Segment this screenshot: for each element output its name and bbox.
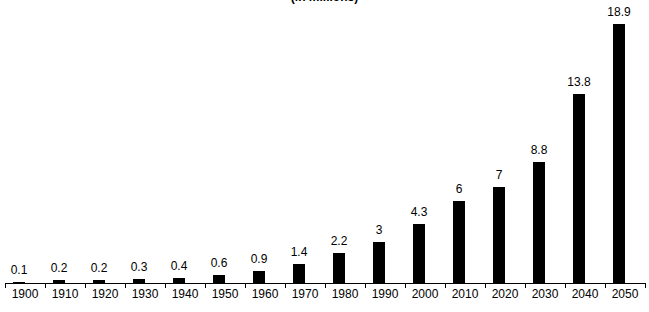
bar-chart: (in millions) 0.119000.219100.219200.319… (0, 0, 649, 312)
x-axis-label: 1990 (365, 288, 405, 301)
x-axis-label: 2030 (525, 288, 565, 301)
value-label: 7 (479, 169, 519, 182)
value-label: 0.2 (39, 262, 79, 275)
value-label: 4.3 (399, 206, 439, 219)
x-axis-label: 2040 (565, 288, 605, 301)
bar-2030 (533, 162, 545, 283)
bar-1930 (133, 279, 145, 283)
x-axis-label: 2010 (445, 288, 485, 301)
bar-1980 (333, 253, 345, 283)
x-axis-label: 1930 (125, 288, 165, 301)
value-label: 0.2 (79, 262, 119, 275)
value-label: 8.8 (519, 144, 559, 157)
value-label: 1.4 (279, 246, 319, 259)
value-label: 3 (359, 224, 399, 237)
value-label: 0.6 (199, 257, 239, 270)
bar-1970 (293, 264, 305, 283)
bar-1990 (373, 242, 385, 283)
plot-area: 0.119000.219100.219200.319300.419400.619… (0, 0, 649, 312)
x-axis-label: 1950 (205, 288, 245, 301)
bar-2020 (493, 187, 505, 283)
bar-2000 (413, 224, 425, 283)
x-axis-label: 1970 (285, 288, 325, 301)
x-axis-label: 1910 (45, 288, 85, 301)
x-axis-label: 2000 (405, 288, 445, 301)
x-axis-label: 1920 (85, 288, 125, 301)
value-label: 18.9 (599, 6, 639, 19)
bar-1920 (93, 280, 105, 283)
value-label: 0.4 (159, 260, 199, 273)
value-label: 0.1 (0, 264, 39, 277)
value-label: 2.2 (319, 235, 359, 248)
bar-2010 (453, 201, 465, 283)
bar-1950 (213, 275, 225, 283)
x-axis-label: 1960 (245, 288, 285, 301)
bar-1910 (53, 280, 65, 283)
value-label: 6 (439, 183, 479, 196)
bar-1900 (13, 282, 25, 283)
x-axis-tick (645, 283, 646, 288)
bar-2050 (613, 24, 625, 283)
value-label: 13.8 (559, 76, 599, 89)
x-axis-label: 1940 (165, 288, 205, 301)
value-label: 0.9 (239, 253, 279, 266)
x-axis-label: 2020 (485, 288, 525, 301)
x-axis-label: 1900 (5, 288, 45, 301)
bar-1940 (173, 278, 185, 283)
value-label: 0.3 (119, 261, 159, 274)
bar-2040 (573, 94, 585, 283)
bar-1960 (253, 271, 265, 283)
x-axis-label: 2050 (605, 288, 645, 301)
x-axis-label: 1980 (325, 288, 365, 301)
